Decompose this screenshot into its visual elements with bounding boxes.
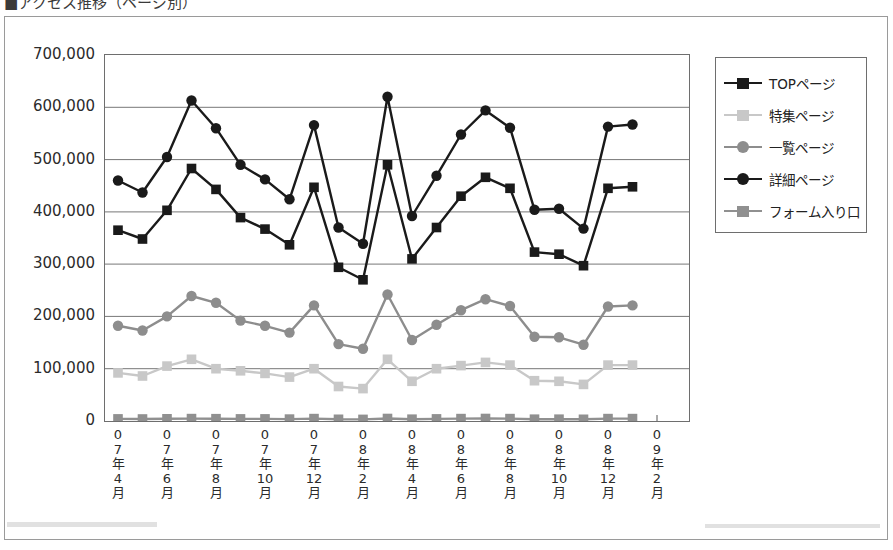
x-axis-tick-char: 0 [301,428,327,443]
legend-item-フォーム入り口[interactable]: フォーム入り口 [716,195,866,227]
x-axis-tick-char: 7 [105,443,131,458]
x-axis-tick-char: 年 [595,457,621,472]
x-axis-tick-label: 09年2月 [644,428,670,501]
x-axis-tick-char: 4 [399,472,425,487]
x-axis-tick-char: 7 [154,443,180,458]
x-axis-tick-char: 年 [105,457,131,472]
x-axis-tick-char: 年 [546,457,572,472]
chart-canvas [105,55,689,421]
legend-marker-icon [724,108,762,122]
x-axis-tick-label: 08年8月 [497,428,523,501]
y-axis-tick-label: 400,000 [15,202,95,220]
x-axis-tick-char: 0 [595,428,621,443]
x-axis-tick-char: 年 [350,457,376,472]
x-axis-tick-label: 08年12月 [595,428,621,501]
x-axis-tick-char: 12 [301,472,327,487]
x-axis-tick-char: 月 [203,486,229,501]
plot-area [104,54,690,422]
series-TOPページ [113,160,637,285]
series-フォーム入り口 [113,414,637,421]
x-axis-tick-char: 月 [105,486,131,501]
x-axis-tick-char: 6 [154,472,180,487]
y-axis-tick-label: 300,000 [15,254,95,272]
legend-item-label: 一覧ページ [769,137,834,157]
x-axis-tick-char: 年 [154,457,180,472]
breadcrumb: ■アクセス推移（ページ別） [4,0,197,12]
x-axis-tick-char: 年 [644,457,670,472]
x-axis-tick-char: 月 [448,486,474,501]
x-axis-tick-label: 07年12月 [301,428,327,501]
x-axis-tick-char: 8 [497,443,523,458]
x-axis-tick-char: 0 [252,428,278,443]
legend-marker-icon [724,76,762,90]
x-axis-tick-char: 年 [301,457,327,472]
x-axis-tick-char: 0 [399,428,425,443]
x-axis-tick-char: 月 [644,486,670,501]
x-axis-tick-label: 08年4月 [399,428,425,501]
x-axis-tick-char: 月 [350,486,376,501]
x-axis-tick-char: 12 [595,472,621,487]
x-axis-tick-char: 年 [252,457,278,472]
legend-item-詳細ページ[interactable]: 詳細ページ [716,163,866,195]
scan-artifact [705,524,880,528]
legend-marker-icon [724,140,762,154]
legend-item-label: TOPページ [769,73,835,93]
legend-item-TOPページ[interactable]: TOPページ [716,67,866,99]
x-axis-tick-char: 4 [105,472,131,487]
x-axis-tick-char: 0 [203,428,229,443]
scan-artifact [7,522,157,527]
x-axis-tick-label: 07年10月 [252,428,278,501]
x-axis-tick-char: 8 [595,443,621,458]
page-header-strip: ■アクセス推移（ページ別） [0,0,893,16]
x-axis-tick-char: 6 [448,472,474,487]
x-axis-tick-label: 07年8月 [203,428,229,501]
x-axis-tick-char: 9 [644,443,670,458]
legend-item-label: 特集ページ [769,105,834,125]
x-axis-tick-char: 0 [644,428,670,443]
x-axis-tick-char: 月 [497,486,523,501]
y-axis-tick-label: 0 [15,411,95,429]
x-axis-tick-label: 07年6月 [154,428,180,501]
x-axis-tick-label: 08年6月 [448,428,474,501]
x-axis-tick-char: 0 [497,428,523,443]
x-axis-tick-char: 月 [546,486,572,501]
x-axis-tick-char: 2 [644,472,670,487]
x-axis-tick-char: 8 [350,443,376,458]
x-axis-tick-char: 年 [399,457,425,472]
x-axis-tick-char: 2 [350,472,376,487]
x-axis-tick-char: 月 [252,486,278,501]
x-axis-tick-char: 月 [301,486,327,501]
x-axis-tick-char: 7 [301,443,327,458]
x-axis-tick-char: 10 [252,472,278,487]
legend-item-一覧ページ[interactable]: 一覧ページ [716,131,866,163]
x-axis-tick-char: 7 [252,443,278,458]
y-axis-tick-label: 700,000 [15,45,95,63]
x-axis-tick-char: 年 [497,457,523,472]
x-axis-tick-label: 07年4月 [105,428,131,501]
x-axis-tick-label: 08年2月 [350,428,376,501]
x-axis-tick-char: 月 [595,486,621,501]
legend-item-label: フォーム入り口 [769,201,860,221]
x-axis-tick-label: 08年10月 [546,428,572,501]
x-axis-tick-char: 0 [350,428,376,443]
x-axis-tick-char: 8 [399,443,425,458]
x-axis-tick-char: 0 [105,428,131,443]
x-axis-tick-char: 年 [448,457,474,472]
legend-marker-icon [724,172,762,186]
x-axis-tick-char: 年 [203,457,229,472]
y-axis-tick-label: 200,000 [15,306,95,324]
x-axis-tick-char: 0 [448,428,474,443]
x-axis-tick-char: 8 [448,443,474,458]
legend-item-label: 詳細ページ [769,169,834,189]
series-特集ページ [113,355,637,394]
x-axis-tick-char: 月 [154,486,180,501]
x-axis-tick-char: 月 [399,486,425,501]
y-axis-tick-label: 100,000 [15,359,95,377]
y-axis-tick-label: 600,000 [15,97,95,115]
chart-panel: 700,000600,000500,000400,000300,000200,0… [4,16,888,540]
legend-item-特集ページ[interactable]: 特集ページ [716,99,866,131]
x-axis-tick-char: 10 [546,472,572,487]
x-axis-tick-char: 8 [203,472,229,487]
chart-legend: TOPページ特集ページ一覧ページ詳細ページフォーム入り口 [715,57,867,233]
legend-marker-icon [724,204,762,218]
